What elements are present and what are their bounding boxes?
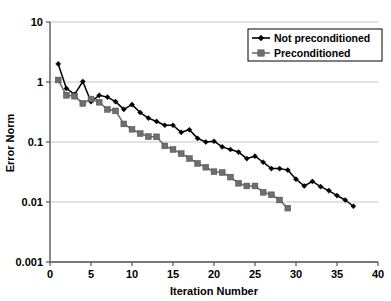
data-point-marker <box>195 160 201 166</box>
data-point-marker <box>113 108 119 114</box>
y-tick-label: 0.01 <box>22 196 43 208</box>
data-point-marker <box>162 123 167 128</box>
data-point-marker <box>80 100 86 106</box>
data-point-marker <box>137 131 143 137</box>
data-point-marker <box>244 183 250 189</box>
data-point-marker <box>121 121 127 127</box>
x-tick-label: 5 <box>88 268 94 280</box>
data-point-marker <box>154 134 160 140</box>
x-tick-label: 15 <box>167 268 179 280</box>
x-axis-title: Iteration Number <box>170 285 259 297</box>
series-preconditioned <box>55 77 290 211</box>
data-point-marker <box>88 96 94 102</box>
data-point-marker <box>64 92 70 98</box>
data-point-marker <box>203 164 209 170</box>
chart-figure: 0510152025303540 0.0010.010.1110 Not pre… <box>0 0 391 301</box>
data-point-marker <box>154 119 159 124</box>
legend-item-label: Not preconditioned <box>274 32 370 44</box>
y-tick-label: 1 <box>37 76 43 88</box>
data-point-marker <box>146 134 152 140</box>
data-point-marker <box>105 106 111 112</box>
x-tick-label: 25 <box>249 268 261 280</box>
data-point-marker <box>96 99 102 105</box>
data-point-marker <box>203 139 208 144</box>
x-tick-label: 0 <box>47 268 53 280</box>
y-axis-tick-labels: 0.0010.010.1110 <box>15 16 43 268</box>
y-tick-label: 0.1 <box>28 136 43 148</box>
x-tick-label: 10 <box>126 268 138 280</box>
y-axis-title: Error Norm <box>4 113 16 172</box>
data-point-marker <box>260 189 266 195</box>
series-not-preconditioned <box>56 61 356 208</box>
x-tick-label: 30 <box>290 268 302 280</box>
data-point-marker <box>170 147 176 153</box>
data-point-marker <box>187 156 193 162</box>
data-point-marker <box>277 197 283 203</box>
chart-canvas: 0510152025303540 0.0010.010.1110 Not pre… <box>0 0 391 301</box>
data-point-marker <box>219 170 225 176</box>
data-point-marker <box>228 147 233 152</box>
series-line <box>58 64 353 206</box>
y-tick-label: 10 <box>31 16 43 28</box>
data-point-marker <box>277 166 282 171</box>
data-point-marker <box>252 183 258 189</box>
data-point-marker <box>269 192 275 198</box>
data-point-marker <box>56 61 61 66</box>
data-point-marker <box>285 205 291 211</box>
data-point-marker <box>211 169 217 175</box>
x-tick-label: 20 <box>208 268 220 280</box>
y-tick-label: 0.001 <box>15 256 43 268</box>
x-tick-label: 40 <box>372 268 384 280</box>
data-point-marker <box>236 180 242 186</box>
data-point-marker <box>162 143 168 149</box>
data-point-marker <box>228 174 234 180</box>
chart-legend: Not preconditionedPreconditioned <box>248 29 382 61</box>
x-axis-tick-labels: 0510152025303540 <box>47 268 384 280</box>
data-point-marker <box>178 151 184 157</box>
data-point-marker <box>129 126 135 132</box>
data-point-marker <box>55 77 61 83</box>
x-tick-label: 35 <box>331 268 343 280</box>
legend-item-label: Preconditioned <box>274 47 350 59</box>
data-series-layer <box>55 61 356 211</box>
data-point-marker <box>258 50 264 56</box>
data-point-marker <box>72 93 78 99</box>
